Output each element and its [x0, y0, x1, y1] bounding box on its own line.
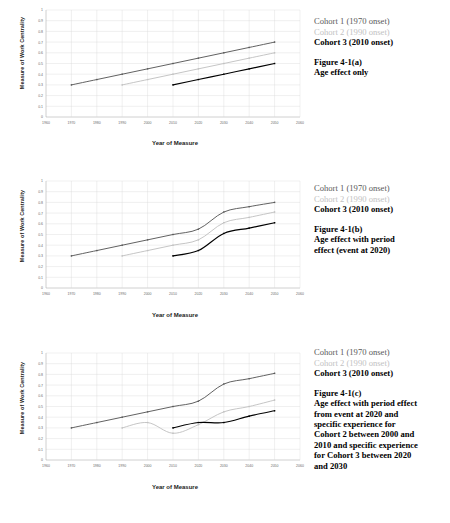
svg-text:1960: 1960 [42, 121, 50, 125]
legend-item-cohort1-b: Cohort 1 (1970 onset) [314, 183, 450, 194]
svg-text:0.7: 0.7 [38, 384, 43, 388]
x-axis-label-b: Year of Measure [60, 312, 290, 318]
legend-and-caption-c: Cohort 1 (1970 onset) Cohort 2 (1990 ons… [314, 347, 450, 471]
svg-text:0.3: 0.3 [38, 83, 43, 87]
svg-text:1970: 1970 [68, 292, 76, 296]
svg-text:0.9: 0.9 [38, 19, 43, 23]
svg-text:2010: 2010 [169, 292, 177, 296]
svg-text:0.6: 0.6 [38, 51, 43, 55]
legend-and-caption-a: Cohort 1 (1970 onset) Cohort 2 (1990 ons… [314, 16, 450, 78]
caption-c-line-2: from event at 2020 and [314, 409, 450, 419]
caption-c-line-4: Cohort 2 between 2000 and [314, 429, 450, 439]
figure-4-1-a: Measure of Work Centrality 00.10.20.30.4… [0, 0, 450, 171]
chart-b-canvas: 00.10.20.30.40.50.60.70.80.9119601970198… [0, 171, 312, 311]
svg-text:0: 0 [41, 286, 43, 290]
caption-b-line-1: Age effect with period [314, 234, 450, 244]
svg-text:1: 1 [41, 351, 43, 355]
svg-text:0.4: 0.4 [38, 73, 43, 77]
x-axis-label-c: Year of Measure [60, 484, 290, 490]
svg-text:2050: 2050 [271, 464, 279, 468]
caption-b-line-2: effect (event at 2020) [314, 245, 450, 255]
chart-b: Measure of Work Centrality 00.10.20.30.4… [0, 171, 312, 343]
caption-c-line-0: Figure 4-1(c) [314, 388, 450, 398]
legend-item-cohort3-b: Cohort 3 (2010 onset) [314, 204, 450, 215]
caption-c-line-5: 2010 and specific experience [314, 440, 450, 450]
svg-text:2030: 2030 [220, 292, 228, 296]
svg-text:2000: 2000 [144, 292, 152, 296]
svg-text:0.1: 0.1 [38, 105, 43, 109]
legend-item-cohort1-a: Cohort 1 (1970 onset) [314, 16, 450, 27]
figure-4-1-b: Measure of Work Centrality 00.10.20.30.4… [0, 171, 450, 343]
svg-text:0.4: 0.4 [38, 244, 43, 248]
svg-text:0.6: 0.6 [38, 394, 43, 398]
svg-text:0: 0 [41, 115, 43, 119]
svg-text:2030: 2030 [220, 121, 228, 125]
chart-a: Measure of Work Centrality 00.10.20.30.4… [0, 0, 312, 171]
svg-text:2040: 2040 [245, 464, 253, 468]
svg-text:0.8: 0.8 [38, 373, 43, 377]
svg-text:1990: 1990 [118, 121, 126, 125]
svg-text:2020: 2020 [195, 121, 203, 125]
svg-text:2020: 2020 [195, 292, 203, 296]
svg-text:0.6: 0.6 [38, 222, 43, 226]
y-axis-label-b: Measure of Work Centrality [19, 171, 25, 281]
svg-text:0.2: 0.2 [38, 94, 43, 98]
caption-a-line-0: Figure 4-1(a) [314, 57, 450, 67]
svg-text:2030: 2030 [220, 464, 228, 468]
svg-text:1980: 1980 [93, 292, 101, 296]
svg-text:2060: 2060 [296, 121, 304, 125]
svg-text:0.5: 0.5 [38, 405, 43, 409]
svg-text:0.9: 0.9 [38, 190, 43, 194]
legend-item-cohort3-a: Cohort 3 (2010 onset) [314, 37, 450, 48]
svg-text:0.3: 0.3 [38, 426, 43, 430]
y-axis-label-a: Measure of Work Centrality [19, 0, 25, 108]
svg-text:0.8: 0.8 [38, 201, 43, 205]
svg-text:0.7: 0.7 [38, 41, 43, 45]
chart-c-canvas: 00.10.20.30.40.50.60.70.80.9119601970198… [0, 343, 312, 483]
svg-text:0.3: 0.3 [38, 254, 43, 258]
svg-text:2050: 2050 [271, 121, 279, 125]
svg-text:2010: 2010 [169, 464, 177, 468]
svg-text:2040: 2040 [245, 292, 253, 296]
legend-and-caption-b: Cohort 1 (1970 onset) Cohort 2 (1990 ons… [314, 183, 450, 255]
svg-text:2060: 2060 [296, 292, 304, 296]
svg-text:2010: 2010 [169, 121, 177, 125]
svg-text:2040: 2040 [245, 121, 253, 125]
caption-c-line-3: specific experience for [314, 419, 450, 429]
legend-item-cohort2-b: Cohort 2 (1990 onset) [314, 194, 450, 205]
svg-text:1980: 1980 [93, 464, 101, 468]
caption-c-line-1: Age effect with period effect [314, 398, 450, 408]
svg-text:1990: 1990 [118, 464, 126, 468]
svg-text:1960: 1960 [42, 464, 50, 468]
caption-c-line-7: and 2030 [314, 461, 450, 471]
svg-text:1990: 1990 [118, 292, 126, 296]
y-axis-label-c: Measure of Work Centrality [19, 343, 25, 453]
svg-text:1970: 1970 [68, 464, 76, 468]
svg-text:2060: 2060 [296, 464, 304, 468]
svg-text:1: 1 [41, 8, 43, 12]
svg-text:0.2: 0.2 [38, 265, 43, 269]
x-axis-label-a: Year of Measure [60, 140, 290, 146]
svg-text:0: 0 [41, 458, 43, 462]
svg-text:0.1: 0.1 [38, 448, 43, 452]
svg-text:1970: 1970 [68, 121, 76, 125]
caption-c-line-6: for Cohort 3 between 2020 [314, 450, 450, 460]
svg-text:0.4: 0.4 [38, 416, 43, 420]
legend-item-cohort3-c: Cohort 3 (2010 onset) [314, 368, 450, 379]
chart-c: Measure of Work Centrality 00.10.20.30.4… [0, 343, 312, 523]
svg-text:2050: 2050 [271, 292, 279, 296]
svg-text:1960: 1960 [42, 292, 50, 296]
svg-text:0.8: 0.8 [38, 30, 43, 34]
caption-b-line-0: Figure 4-1(b) [314, 224, 450, 234]
svg-text:1: 1 [41, 179, 43, 183]
svg-text:0.5: 0.5 [38, 233, 43, 237]
legend-item-cohort2-c: Cohort 2 (1990 onset) [314, 358, 450, 369]
svg-text:2020: 2020 [195, 464, 203, 468]
legend-item-cohort2-a: Cohort 2 (1990 onset) [314, 27, 450, 38]
figure-4-1-c: Measure of Work Centrality 00.10.20.30.4… [0, 343, 450, 523]
svg-text:0.5: 0.5 [38, 62, 43, 66]
svg-text:0.7: 0.7 [38, 212, 43, 216]
svg-text:0.1: 0.1 [38, 276, 43, 280]
svg-text:0.9: 0.9 [38, 362, 43, 366]
caption-a-line-1: Age effect only [314, 67, 450, 77]
